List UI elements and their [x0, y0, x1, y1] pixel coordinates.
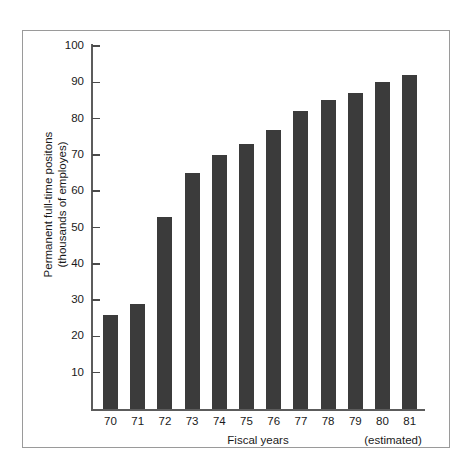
- chart-frame: 102030405060708090100 707172737475767778…: [22, 30, 450, 448]
- estimated-annotation: (estimated): [353, 434, 433, 446]
- x-tick-label: 74: [205, 415, 233, 427]
- x-axis-line: [91, 409, 425, 411]
- bar: [402, 75, 417, 409]
- bar: [185, 173, 200, 409]
- y-tick-label: 10: [44, 367, 84, 379]
- x-tick-label: 77: [287, 415, 315, 427]
- y-tick-mark: [92, 118, 100, 120]
- bar: [239, 144, 254, 409]
- y-axis-title: Permanent full-time positons (thousands …: [42, 75, 69, 335]
- y-tick-mark: [92, 190, 100, 192]
- x-tick-label: 79: [341, 415, 369, 427]
- y-tick-mark: [92, 263, 100, 265]
- y-axis-title-line-1: Permanent full-time positons: [42, 75, 56, 335]
- bar: [157, 217, 172, 409]
- y-tick-mark: [92, 336, 100, 338]
- x-tick-label: 80: [369, 415, 397, 427]
- y-tick-mark: [92, 45, 100, 47]
- plot-area: 102030405060708090100 707172737475767778…: [23, 31, 451, 449]
- x-tick-label: 76: [260, 415, 288, 427]
- y-tick-mark: [92, 154, 100, 156]
- y-tick-mark: [92, 372, 100, 374]
- x-tick-label: 81: [396, 415, 424, 427]
- bar: [103, 315, 118, 409]
- y-axis-title-line-2: (thousands of employes): [55, 75, 69, 335]
- x-tick-label: 71: [124, 415, 152, 427]
- y-tick-mark: [92, 227, 100, 229]
- bar: [348, 93, 363, 409]
- x-tick-label: 72: [151, 415, 179, 427]
- y-tick-mark: [92, 82, 100, 84]
- bar: [375, 82, 390, 409]
- bar: [266, 130, 281, 410]
- bar: [321, 100, 336, 409]
- x-tick-label: 75: [233, 415, 261, 427]
- bar: [212, 155, 227, 409]
- bar: [293, 111, 308, 409]
- y-tick-mark: [92, 299, 100, 301]
- x-tick-label: 70: [97, 415, 125, 427]
- bar: [130, 304, 145, 409]
- y-tick-label: 100: [44, 40, 84, 52]
- x-tick-label: 73: [178, 415, 206, 427]
- x-tick-label: 78: [314, 415, 342, 427]
